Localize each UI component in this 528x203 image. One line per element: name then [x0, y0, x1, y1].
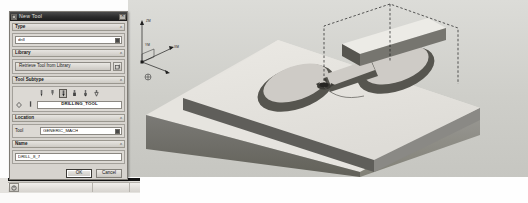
tool-subtype-selected-chip: DRILLING_TOOL [37, 101, 122, 109]
titlebar-left: New Tool [11, 14, 42, 20]
retrieve-tool-label: Retrieve Tool from Library [19, 64, 70, 69]
ok-button[interactable]: OK [66, 169, 92, 178]
dialog-title: New Tool [19, 14, 42, 19]
chevron-up-icon[interactable]: ʌ [120, 25, 122, 29]
group-body-library: Retrieve Tool from Library [12, 59, 125, 74]
center-drill-tool-icon[interactable] [48, 89, 56, 98]
cad-3d-viewport[interactable]: ZM YM XM [128, 0, 528, 177]
screen-root: ZM YM XM New Tool ✕ [0, 0, 528, 203]
name-field-row: DRILL_8_7 [15, 153, 122, 161]
cad-model-render [128, 0, 528, 177]
type-field-row: drill [15, 36, 122, 44]
location-tool-value: GENERIC_MACH [43, 129, 78, 133]
taskbar-underfill [0, 193, 140, 203]
close-icon[interactable]: ✕ [119, 14, 126, 20]
group-header-type[interactable]: Type ʌ [12, 23, 125, 31]
dropdown-button-icon[interactable] [115, 129, 120, 134]
dialog-titlebar[interactable]: New Tool ✕ [10, 12, 127, 21]
group-title-name: Name [15, 142, 28, 147]
group-header-library[interactable]: Library ʌ [12, 49, 125, 57]
ok-label: OK [76, 171, 83, 176]
location-tool-combo[interactable]: GENERIC_MACH [40, 127, 122, 135]
tool-subtype-icon-row-2: DRILLING_TOOL [15, 100, 122, 109]
group-title-tool-subtype: Tool Subtype [15, 78, 44, 83]
chevron-up-icon[interactable]: ʌ [120, 51, 122, 55]
group-title-type: Type [15, 25, 25, 30]
group-header-location[interactable]: Location ʌ [12, 114, 125, 122]
reamer-tool-icon[interactable] [26, 100, 34, 109]
group-body-type: drill [12, 33, 125, 47]
tap-tool-icon[interactable] [15, 100, 23, 109]
library-field-row: Retrieve Tool from Library [15, 62, 122, 71]
cancel-label: Cancel [102, 171, 116, 176]
dialog-body: Type ʌ drill Library ʌ Retrie [10, 21, 127, 178]
counterbore-tool-icon[interactable] [70, 89, 78, 98]
group-header-tool-subtype[interactable]: Tool Subtype ʌ [12, 76, 125, 84]
type-combo[interactable]: drill [15, 36, 122, 44]
taskbar-segment[interactable] [93, 183, 130, 192]
location-tool-row: Tool GENERIC_MACH [15, 127, 122, 135]
group-title-library: Library [15, 51, 31, 56]
taskbar-segment[interactable] [130, 183, 140, 192]
name-input[interactable]: DRILL_8_7 [15, 153, 122, 161]
retrieve-tool-from-library-button[interactable]: Retrieve Tool from Library [15, 62, 111, 71]
axis-label-xm: XM [174, 46, 179, 49]
start-button-icon[interactable] [9, 183, 19, 192]
chevron-up-icon[interactable]: ʌ [120, 78, 122, 82]
dialog-window-icon [11, 14, 17, 20]
library-browse-icon[interactable] [113, 62, 122, 71]
location-tool-label: Tool [15, 129, 37, 134]
group-body-name: DRILL_8_7 [12, 150, 125, 164]
new-tool-dialog[interactable]: New Tool ✕ Type ʌ drill Library [9, 11, 128, 180]
viewport-bottom-margin [128, 177, 528, 203]
drill-tool-icon[interactable] [37, 89, 45, 98]
type-value: drill [18, 38, 25, 42]
dropdown-button-icon[interactable] [115, 38, 120, 43]
dialog-footer: OK Cancel [12, 166, 125, 178]
group-body-location: Tool GENERIC_MACH [12, 124, 125, 138]
taskbar [0, 178, 140, 203]
axis-label-ym: YM [145, 44, 150, 47]
taskbar-strip[interactable] [8, 182, 140, 192]
group-header-name[interactable]: Name ʌ [12, 140, 125, 148]
taskbar-segment[interactable] [19, 183, 93, 192]
group-title-location: Location [15, 116, 34, 121]
chevron-up-icon[interactable]: ʌ [120, 116, 122, 120]
tool-subtype-selected-label: DRILLING_TOOL [61, 102, 98, 106]
axis-label-zm: ZM [146, 20, 151, 23]
step-drill-tool-icon[interactable] [81, 89, 89, 98]
countersink-tool-icon[interactable] [92, 89, 100, 98]
cancel-button[interactable]: Cancel [96, 169, 122, 178]
group-body-tool-subtype: DRILLING_TOOL [12, 86, 125, 112]
tool-subtype-icon-row-1 [15, 89, 122, 98]
name-value: DRILL_8_7 [18, 155, 40, 159]
chevron-up-icon[interactable]: ʌ [120, 142, 122, 146]
spot-drilling-tool-icon[interactable] [59, 89, 67, 98]
